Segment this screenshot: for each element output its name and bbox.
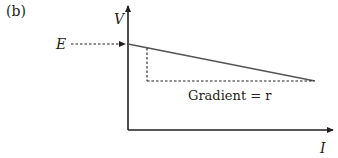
panel-label: (b) xyxy=(6,3,26,19)
gradient-label: Gradient = r xyxy=(188,88,272,103)
x-axis-label-pos: I xyxy=(319,140,326,156)
vi-line xyxy=(128,44,315,81)
intercept-label: E xyxy=(55,36,66,52)
y-axis-label: V xyxy=(114,11,126,27)
vi-graph: (b) V I I E Gradient = r xyxy=(0,0,338,158)
